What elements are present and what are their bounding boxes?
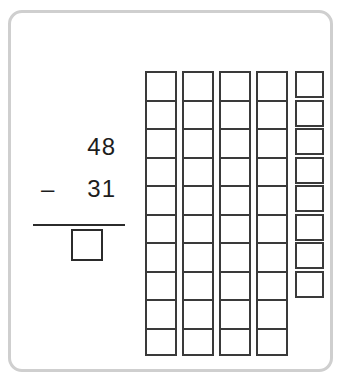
- rod-cell: [145, 157, 177, 186]
- ten-rod-2[interactable]: [182, 71, 214, 356]
- rod-cell: [182, 299, 214, 328]
- loose-unit-column: [295, 71, 325, 299]
- rod-cell: [219, 214, 251, 243]
- rod-cell: [219, 328, 251, 357]
- subtrahend-value: 31: [87, 175, 128, 203]
- minuend-value: 48: [87, 133, 128, 161]
- rod-cell: [256, 299, 288, 328]
- rod-cell: [256, 100, 288, 129]
- rod-cell: [256, 214, 288, 243]
- unit-block[interactable]: [295, 271, 324, 298]
- rod-cell: [256, 71, 288, 100]
- unit-block[interactable]: [295, 214, 324, 241]
- rod-cell: [145, 128, 177, 157]
- unit-block[interactable]: [295, 185, 324, 212]
- minus-operator-icon: –: [41, 175, 54, 203]
- rod-cell: [145, 71, 177, 100]
- rod-cell: [145, 185, 177, 214]
- minuend-row: 48: [33, 133, 128, 161]
- subtrahend-row: – 31: [33, 175, 128, 203]
- rod-cell: [182, 71, 214, 100]
- rod-cell: [219, 100, 251, 129]
- rod-cell: [182, 185, 214, 214]
- rod-cell: [182, 242, 214, 271]
- answer-input-box[interactable]: [71, 229, 103, 261]
- unit-block[interactable]: [295, 71, 324, 98]
- answer-rule-line: [33, 224, 125, 226]
- base-ten-blocks-area: [137, 61, 332, 361]
- rod-cell: [256, 271, 288, 300]
- rod-cell: [145, 271, 177, 300]
- rod-cell: [219, 185, 251, 214]
- worksheet-card: 48 – 31: [8, 10, 333, 372]
- rod-cell: [145, 299, 177, 328]
- rod-cell: [219, 157, 251, 186]
- rod-cell: [182, 271, 214, 300]
- rod-cell: [145, 242, 177, 271]
- subtraction-problem: 48 – 31: [33, 133, 128, 268]
- rod-cell: [182, 157, 214, 186]
- rod-cell: [256, 128, 288, 157]
- rod-cell: [256, 328, 288, 357]
- rod-cell: [182, 214, 214, 243]
- ten-rod-3[interactable]: [219, 71, 251, 356]
- unit-block[interactable]: [295, 242, 324, 269]
- rod-cell: [145, 328, 177, 357]
- rod-cell: [182, 128, 214, 157]
- ten-rod-1[interactable]: [145, 71, 177, 356]
- rod-cell: [256, 242, 288, 271]
- unit-block[interactable]: [295, 128, 324, 155]
- rod-cell: [219, 128, 251, 157]
- rod-cell: [219, 71, 251, 100]
- unit-block[interactable]: [295, 157, 324, 184]
- rod-cell: [256, 185, 288, 214]
- rod-cell: [219, 242, 251, 271]
- rod-cell: [182, 328, 214, 357]
- rod-cell: [219, 271, 251, 300]
- rod-cell: [219, 299, 251, 328]
- unit-block[interactable]: [295, 100, 324, 127]
- rod-cell: [182, 100, 214, 129]
- ten-rod-4[interactable]: [256, 71, 288, 356]
- rod-cell: [145, 100, 177, 129]
- rod-cell: [145, 214, 177, 243]
- rod-cell: [256, 157, 288, 186]
